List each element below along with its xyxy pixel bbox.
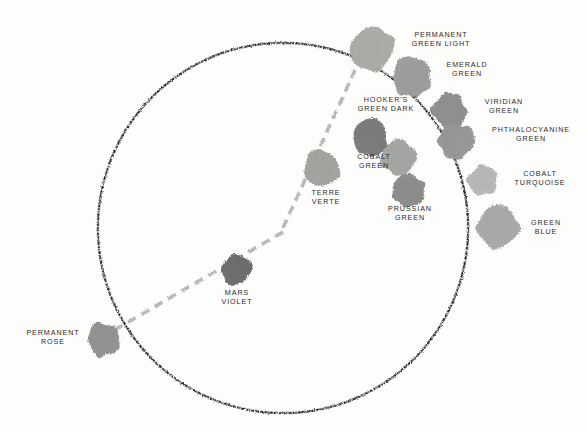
swatch-label-emerald-green: EMERALD GREEN [424,60,510,78]
swatch-prussian-green [392,173,425,207]
swatch-cobalt-turquoise [466,164,497,195]
swatch-label-permanent-rose: PERMANENT ROSE [20,328,86,346]
swatch-green-blue [475,204,521,250]
swatch-label-green-blue: GREEN BLUE [520,218,572,236]
swatch-label-hookers-green-dark: HOOKER'S GREEN DARK [341,95,431,113]
swatch-label-prussian-green: PRUSSIAN GREEN [376,204,444,222]
pigment-wheel-figure: PERMANENT GREEN LIGHTEMERALD GREENHOOKER… [0,0,587,431]
swatch-label-phthalocyanine-green: PHTHALOCYANINE GREEN [475,125,587,143]
swatch-mars-violet [221,254,253,286]
swatch-hookers-green-dark [354,118,388,156]
swatch-terre-verte [304,149,340,186]
swatch-label-viridian-green: VIRIDIAN GREEN [464,97,544,115]
swatch-label-cobalt-turquoise: COBALT TURQUOISE [503,169,577,187]
swatch-label-cobalt-green: COBALT GREEN [344,152,404,170]
swatch-permanent-rose [88,322,120,359]
swatch-label-permanent-green-light: PERMANENT GREEN LIGHT [386,30,496,48]
spoke-lower-left [99,232,283,339]
swatch-label-mars-violet: MARS VIOLET [209,288,265,306]
swatch-phthalocyanine-green [437,123,476,160]
swatch-label-terre-verte: TERRE VERTE [305,188,347,206]
